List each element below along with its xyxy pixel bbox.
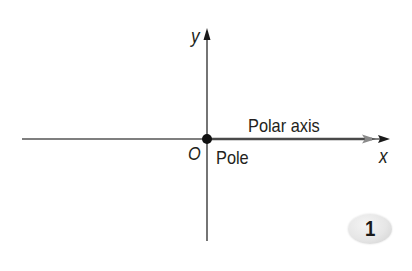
figure-number: 1 — [365, 216, 375, 242]
pole-dot — [202, 134, 212, 144]
x-axis-label: x — [379, 146, 388, 166]
figure-number-badge: 1 — [348, 214, 392, 244]
y-axis-arrowhead-icon — [204, 28, 211, 40]
y-axis-label: y — [191, 26, 200, 46]
pole-label: Pole — [216, 148, 249, 167]
polar-axis-label: Polar axis — [248, 116, 320, 135]
origin-label: O — [188, 144, 201, 163]
